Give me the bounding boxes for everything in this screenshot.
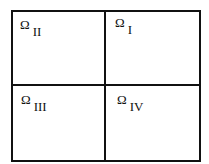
omega-symbol: Ω: [117, 92, 127, 107]
omega-symbol: Ω: [20, 17, 30, 32]
region-subscript: III: [34, 99, 47, 114]
omega-symbol: Ω: [115, 15, 125, 30]
omega-symbol: Ω: [21, 92, 31, 107]
region-subscript: II: [33, 24, 42, 39]
region-label-top-right: ΩI: [115, 16, 129, 29]
region-subscript: IV: [130, 99, 144, 114]
region-label-top-left: ΩII: [20, 18, 38, 31]
region-label-bottom-right: ΩIV: [117, 93, 140, 106]
region-subscript: I: [128, 22, 132, 37]
region-label-bottom-left: ΩIII: [21, 93, 44, 106]
horizontal-divider: [11, 84, 199, 86]
